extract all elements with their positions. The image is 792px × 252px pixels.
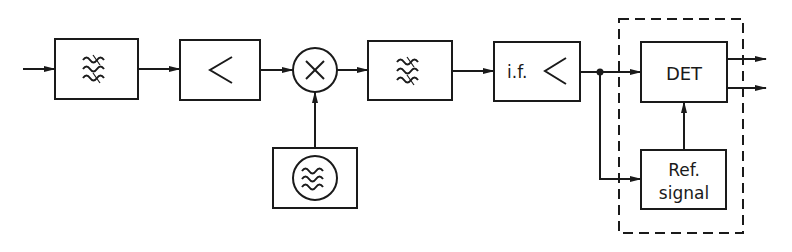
bandpass-filter-icon	[397, 57, 418, 85]
amplifier-icon	[545, 58, 566, 84]
input-filter-block	[55, 39, 138, 99]
rf-amplifier-block	[180, 40, 260, 100]
oscillator-icon	[302, 169, 323, 190]
bandpass-filter-icon	[83, 55, 104, 83]
amplifier-icon	[210, 57, 232, 83]
junction-dot	[597, 69, 604, 76]
block-diagram: i.f. DET Ref. signal	[0, 0, 792, 252]
mixer-block	[293, 48, 337, 92]
if-filter-block	[368, 41, 452, 100]
local-oscillator-block	[273, 148, 357, 208]
connector-if-amp-to-ref	[600, 72, 641, 179]
ref-label-line2: signal	[659, 183, 709, 203]
ref-label-line1: Ref.	[668, 160, 700, 180]
det-label: DET	[666, 63, 703, 84]
if-label: i.f.	[507, 62, 527, 82]
